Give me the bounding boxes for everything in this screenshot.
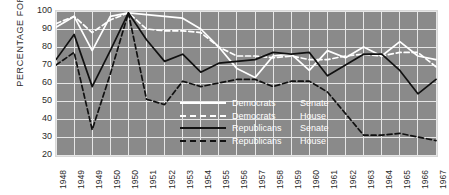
y-tick-label: 40	[26, 114, 52, 123]
x-tick-label: 1956	[240, 170, 249, 189]
legend-item: DemocratsSenate	[180, 97, 355, 110]
x-tick-label: 1958	[276, 170, 285, 189]
y-tick-label: 50	[26, 96, 52, 105]
x-tick-label: 1950	[113, 170, 122, 189]
x-axis-tick-labels: 1948194919491950195019511952195319541955…	[0, 157, 449, 195]
x-tick-label: 1966	[421, 170, 430, 189]
legend-item: RepublicansHouse	[180, 135, 355, 148]
legend-chamber-label: House	[300, 136, 355, 146]
y-tick-label: 80	[26, 42, 52, 51]
series-line-democrats-house	[56, 13, 436, 67]
legend-party-label: Republicans	[226, 136, 300, 146]
legend-party-label: Democrats	[226, 111, 300, 121]
legend-party-label: Democrats	[226, 98, 300, 108]
legend-chamber-label: Senate	[300, 123, 355, 133]
legend-chamber-label: Senate	[300, 98, 355, 108]
legend-item: DemocratsHouse	[180, 110, 355, 123]
x-tick-label: 1952	[168, 170, 177, 189]
x-tick-label: 1953	[186, 170, 195, 189]
x-tick-label: 1951	[149, 170, 158, 189]
x-tick-label: 1957	[258, 170, 267, 189]
series-line-republicans-senate	[56, 13, 436, 94]
legend-party-label: Republicans	[226, 123, 300, 133]
y-tick-label: 100	[26, 6, 52, 15]
y-tick-label: 90	[26, 24, 52, 33]
x-tick-label: 1955	[222, 170, 231, 189]
legend-swatch-icon	[180, 98, 226, 108]
x-tick-label: 1964	[385, 170, 394, 189]
x-tick-label: 1967	[439, 170, 448, 189]
x-tick-label: 1949	[77, 170, 86, 189]
x-tick-label: 1960	[312, 170, 321, 189]
legend-swatch-icon	[180, 111, 226, 121]
chart-legend: DemocratsSenateDemocratsHouseRepublicans…	[180, 97, 355, 147]
y-tick-label: 30	[26, 132, 52, 141]
legend-item: RepublicansSenate	[180, 122, 355, 135]
x-tick-label: 1959	[294, 170, 303, 189]
legend-chamber-label: House	[300, 111, 355, 121]
x-tick-label: 1961	[330, 170, 339, 189]
y-tick-label: 70	[26, 60, 52, 69]
x-tick-label: 1965	[403, 170, 412, 189]
y-tick-label: 60	[26, 78, 52, 87]
x-tick-label: 1950	[131, 170, 140, 189]
x-tick-label: 1949	[95, 170, 104, 189]
legend-swatch-icon	[180, 123, 226, 133]
x-tick-label: 1962	[349, 170, 358, 189]
legend-swatch-icon	[180, 136, 226, 146]
x-tick-label: 1948	[59, 170, 68, 189]
line-chart: PERCENTAGE FOR 1009080706050403020 19481…	[0, 0, 449, 195]
x-tick-label: 1954	[204, 170, 213, 189]
x-tick-label: 1963	[367, 170, 376, 189]
